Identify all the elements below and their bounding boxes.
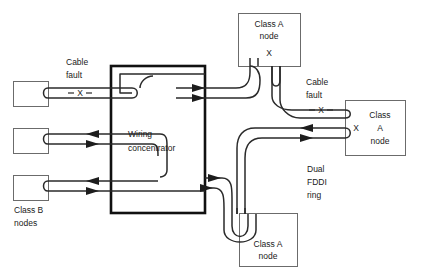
ring-segment-concentrator-to-top-node [176,66,260,102]
class-b-nodes-label: Class B nodes [14,205,44,228]
class-a-node-right-line2: A [377,123,383,133]
cable-fault-left-label: Cable fault X [66,57,88,98]
class-a-node-top-line2: node [260,31,279,41]
cable-fault-left-line2: fault [66,70,83,80]
cable-fault-right-line2: fault [306,90,323,100]
class-a-node-top-line1: Class A [255,19,284,29]
class-a-node-bottom-line2: node [259,251,278,261]
diagram-canvas: Cable fault X Wiring concentrator Class … [0,0,421,277]
cable-fault-right-x: X [318,105,324,115]
wiring-concentrator-line2: concentrator [128,143,175,153]
cable-fault-left-x: X [77,88,83,98]
dual-fddi-ring-label: Dual FDDI ring [307,164,327,200]
class-b-nodes-line2: nodes [14,218,37,228]
class-a-node-top-x: X [266,48,272,58]
dual-fddi-ring-line3: ring [307,190,321,200]
class-a-node-right-line3: node [371,136,390,146]
cable-fault-left-line1: Cable [66,57,88,67]
fddi-network-diagram: Cable fault X Wiring concentrator Class … [0,0,421,277]
ring-segment-right-node-to-bottom [237,124,350,214]
wiring-concentrator-label: Wiring concentrator [128,129,175,153]
dual-fddi-ring-line2: FDDI [307,177,327,187]
class-b-node-3-cable [44,177,206,195]
ring-segment-concentrator-to-bottom-node [200,174,256,242]
class-b-nodes-line1: Class B [14,205,44,215]
dual-fddi-ring-line1: Dual [307,164,325,174]
class-a-node-right-x: X [353,123,359,133]
wiring-concentrator-line1: Wiring [128,129,152,139]
cable-fault-right-line1: Cable [306,77,328,87]
class-a-node-bottom-line1: Class A [254,239,283,249]
class-a-node-right-line1: Class [369,110,390,120]
